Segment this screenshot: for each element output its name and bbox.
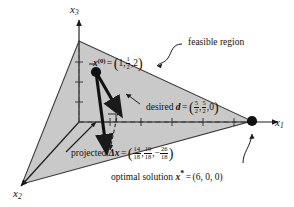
desired-d-open-paren: ( (189, 100, 194, 115)
desired-d-c2-fraction: 52 (202, 100, 206, 115)
desired-d-prefix: desired (146, 102, 173, 112)
desired-d-c2-den: 2 (202, 108, 206, 115)
projected-dx-open-paren: ( (128, 146, 133, 161)
optimal-value: (6, 0, 0) (193, 172, 223, 182)
axis-label-x2: x2 (13, 188, 22, 200)
x0-c1: 1, (118, 58, 125, 68)
annotation-desired-d: desired d=(52,52,0) (146, 100, 219, 115)
desired-d-close-paren: ) (214, 100, 219, 115)
axis-label-x1: x1 (275, 117, 284, 129)
annotation-x0: x(0)=(1,12,2) (93, 56, 143, 71)
optimal-prefix: optimal solution (111, 172, 173, 182)
projected-dx-c3-fraction: 2618 (160, 146, 168, 161)
projected-dx-c3-sign: − (155, 148, 160, 158)
x0-c2-fraction: 12 (126, 56, 130, 71)
optimal-star: * (180, 169, 184, 178)
leader-feasible-region (157, 44, 182, 66)
projected-dx-c3-den: 18 (160, 154, 168, 161)
annotation-optimal-solution: optimal solution x*=(6, 0, 0) (111, 170, 223, 182)
desired-d-symbol: d (176, 102, 181, 112)
desired-d-equals: = (182, 102, 187, 112)
projected-dx-c2-fraction: 1918 (144, 146, 152, 161)
axis-label-x3: x3 (70, 4, 79, 16)
projected-dx-close-paren: ) (169, 146, 174, 161)
axis-x1-sub: 1 (280, 121, 284, 130)
annotation-feasible-region: feasible region (188, 38, 244, 48)
desired-d-c1-fraction: 52 (194, 100, 198, 115)
x0-superscript: (0) (98, 57, 106, 64)
projected-dx-prefix: projected (71, 148, 106, 158)
desired-d-c1-den: 2 (194, 108, 198, 115)
x0-c2-den: 2 (126, 64, 130, 71)
projected-dx-c2-den: 18 (144, 154, 152, 161)
x0-equals: = (107, 58, 112, 68)
optimal-equals: = (186, 172, 191, 182)
axis-x2-sub: 2 (18, 192, 22, 201)
figure-root: x3 x1 x2 feasible region x(0)=(1,12,2) d… (0, 0, 294, 207)
x0-close-paren: ) (138, 56, 143, 71)
projected-dx-c1-fraction: 1418 (133, 146, 141, 161)
projected-dx-symbol: Δx (109, 148, 120, 158)
leader-optimal-solution-head (249, 134, 254, 139)
projected-dx-c1-den: 18 (133, 154, 141, 161)
axis-x3-sub: 3 (75, 8, 79, 17)
point-optimal-marker (247, 116, 257, 126)
projected-dx-equals: = (121, 148, 126, 158)
annotation-projected-dx: projected Δx=(1418,1918,−2618) (71, 146, 173, 161)
